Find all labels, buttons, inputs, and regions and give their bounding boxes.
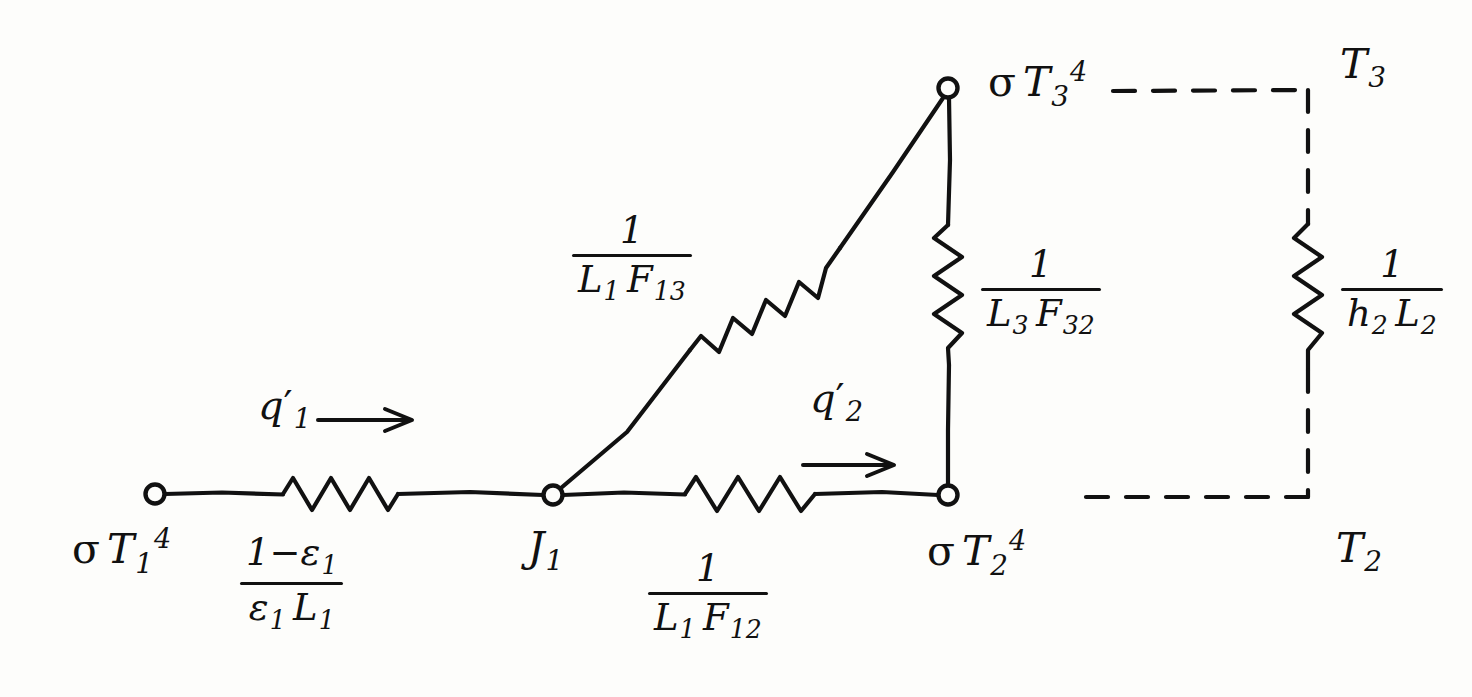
epsilon-symbol-num: ε <box>301 531 321 574</box>
resistance-label-space-32: 1 L3 F32 <box>981 246 1101 340</box>
wire-r1-to-j1 <box>398 492 543 495</box>
node-label-sigma-t3-4: σT34 <box>988 58 1087 110</box>
sigma-symbol-3: σ <box>988 58 1023 106</box>
space-12-fraction-bar <box>648 592 768 595</box>
t2-plain-symbol: T <box>1336 524 1363 572</box>
f-symbol-den-13: F <box>627 258 653 301</box>
surface-1-fraction-bar <box>240 582 343 585</box>
t3-superscript: 4 <box>1069 56 1087 87</box>
t2-superscript: 4 <box>1008 525 1026 556</box>
resistor-space-32-zigzag <box>934 225 962 365</box>
surface-1-num-text: 1− <box>246 531 301 574</box>
wire-n3-to-vertical-resistor <box>948 98 950 225</box>
h2-symbol-den: h <box>1347 292 1371 335</box>
wire-vertical-resistor-to-n2 <box>948 365 949 485</box>
t1-subscript: 1 <box>134 547 153 580</box>
sigma-symbol-2: σ <box>927 527 962 575</box>
space-32-fraction-bar <box>981 288 1101 291</box>
resistance-label-convection-2: 1 h2 L2 <box>1341 246 1443 340</box>
l2-den-subscript: 2 <box>1420 311 1437 340</box>
t1-superscript: 4 <box>153 523 171 554</box>
sigma-symbol-1: σ <box>72 525 107 573</box>
convection-2-denominator: h2 L2 <box>1341 294 1443 340</box>
f-den-subscript-32: 32 <box>1062 311 1095 340</box>
l1-symbol-den-a: L <box>293 586 318 629</box>
f-den-subscript-13: 13 <box>653 277 686 306</box>
wire-diagonal-resistor-to-n3 <box>840 98 943 248</box>
l1-den-subscript-b: 1 <box>679 615 696 644</box>
q1-symbol: q <box>258 382 284 428</box>
j1-subscript: 1 <box>544 544 563 577</box>
space-13-numerator: 1 <box>572 212 692 252</box>
epsilon-num-subscript: 1 <box>320 551 337 580</box>
surface-1-denominator: ε1 L1 <box>240 588 343 634</box>
diagram-canvas: σT14 J1 σT24 σT34 T3 T2 1−ε1 ε1 L1 1 L1 … <box>0 0 1472 697</box>
l3-symbol-den: L <box>987 292 1012 335</box>
flow-label-q2: q′2 <box>810 378 863 425</box>
flow-label-q1: q′1 <box>258 385 311 432</box>
l1-den-subscript-c: 1 <box>603 277 620 306</box>
node-label-j1: J1 <box>528 527 563 575</box>
q1-subscript: 1 <box>293 403 311 434</box>
node-label-sigma-t1-4: σT14 <box>72 525 171 577</box>
t2-plain-subscript: 2 <box>1363 545 1382 578</box>
f-den-subscript-12: 12 <box>729 615 762 644</box>
space-13-denominator: L1 F13 <box>572 260 692 306</box>
t3-subscript: 3 <box>1050 80 1069 113</box>
temperature-label-t2: T2 <box>1336 528 1382 576</box>
l1-symbol-den-b: L <box>654 596 679 639</box>
l2-symbol-den: L <box>1395 292 1420 335</box>
resistor-space-12-zigzag <box>685 477 815 511</box>
j1-symbol: J <box>528 523 544 571</box>
wire-r2-to-n2 <box>815 492 938 495</box>
f-symbol-den-32: F <box>1036 292 1062 335</box>
space-32-denominator: L3 F32 <box>981 294 1101 340</box>
convection-2-numerator: 1 <box>1341 246 1443 286</box>
space-12-denominator: L1 F12 <box>648 598 768 644</box>
convection-2-fraction-bar <box>1341 288 1443 291</box>
resistance-label-space-12: 1 L1 F12 <box>648 550 768 644</box>
l1-symbol-den-c: L <box>578 258 603 301</box>
wire-j1-to-diagonal-resistor <box>561 350 690 488</box>
surface-1-numerator: 1−ε1 <box>240 534 343 580</box>
resistor-convection-2-zigzag <box>1294 224 1322 370</box>
wire-n1-to-r1 <box>165 493 283 495</box>
resistor-surface-1-zigzag <box>283 478 398 510</box>
q1-prime: ′ <box>284 382 293 428</box>
epsilon-symbol-den: ε <box>249 586 269 629</box>
t1-symbol: T <box>107 525 134 573</box>
t2-subscript: 2 <box>989 549 1008 582</box>
node-sigma-t3-4-circle <box>939 79 958 98</box>
l1-den-subscript-a: 1 <box>318 606 335 635</box>
resistance-label-space-13: 1 L1 F13 <box>572 212 692 306</box>
f-symbol-den-12: F <box>703 596 729 639</box>
epsilon-den-subscript: 1 <box>269 606 286 635</box>
node-sigma-t2-4-circle <box>939 486 958 505</box>
l3-den-subscript: 3 <box>1012 311 1029 340</box>
h2-den-subscript: 2 <box>1371 311 1388 340</box>
t3-plain-symbol: T <box>1340 40 1367 88</box>
q2-subscript: 2 <box>845 396 863 427</box>
space-13-fraction-bar <box>572 254 692 257</box>
resistor-space-13-zigzag <box>690 248 840 352</box>
t2-symbol: T <box>962 527 989 575</box>
space-12-numerator: 1 <box>648 550 768 590</box>
dashed-wire-top <box>1113 90 1308 91</box>
t3-plain-subscript: 3 <box>1367 61 1386 94</box>
space-32-numerator: 1 <box>981 246 1101 286</box>
t3-symbol: T <box>1023 58 1050 106</box>
q2-symbol: q <box>810 375 836 421</box>
resistance-label-surface-1: 1−ε1 ε1 L1 <box>240 534 343 634</box>
q2-prime: ′ <box>836 375 845 421</box>
node-label-sigma-t2-4: σT24 <box>927 527 1026 579</box>
temperature-label-t3: T3 <box>1340 44 1386 92</box>
node-sigma-t1-4-circle <box>146 485 165 504</box>
wire-j1-to-r2 <box>563 493 685 496</box>
